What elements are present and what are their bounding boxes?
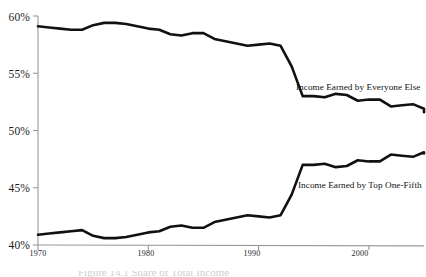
annotation-top-one-fifth: Income Earned by Top One-Fifth bbox=[298, 180, 422, 190]
annotation-everyone-else: Income Earned by Everyone Else bbox=[296, 82, 420, 92]
y-tick-label-50: 50% bbox=[0, 125, 30, 137]
figure-caption-text: Figure 14.1 Share of Total Income bbox=[78, 271, 229, 277]
x-axis-line bbox=[38, 245, 424, 246]
x-tick-label-2000: 2000 bbox=[340, 249, 380, 258]
series-line-top-one-fifth bbox=[38, 152, 424, 238]
y-tick-label-45: 45% bbox=[0, 182, 30, 194]
x-tick-label-1990: 1990 bbox=[232, 249, 272, 258]
chart-figure: 60% 55% 50% 45% 40% 1970 1980 1990 2000 … bbox=[0, 0, 426, 277]
figure-caption-clipped: Figure 14.1 Share of Total Income bbox=[0, 271, 426, 277]
y-tick-label-55: 55% bbox=[0, 68, 30, 80]
y-tick-label-60: 60% bbox=[0, 11, 30, 23]
x-tick-label-1970: 1970 bbox=[18, 249, 58, 258]
y-axis-ticks bbox=[33, 16, 38, 245]
line-chart-plot bbox=[0, 0, 426, 277]
series-line-everyone-else bbox=[38, 23, 424, 112]
x-tick-label-1980: 1980 bbox=[126, 249, 166, 258]
